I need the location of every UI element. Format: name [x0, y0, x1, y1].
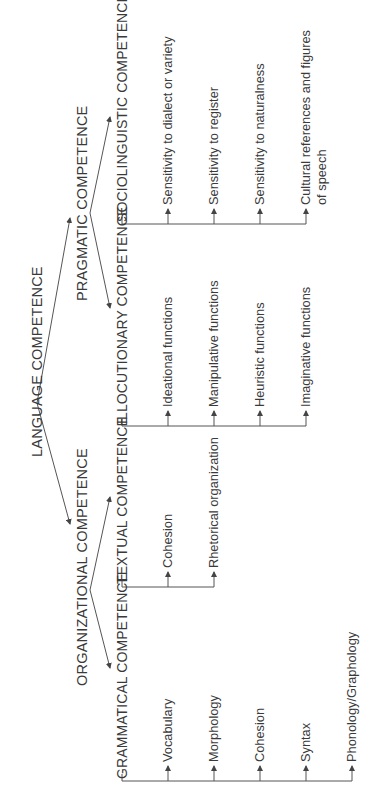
sociolinguistic-item: Sensitivity to register	[208, 87, 221, 205]
textual-bracket	[122, 572, 214, 587]
illocutionary-item: Heuristic functions	[254, 302, 267, 407]
illocutionary-bracket	[122, 411, 306, 426]
diagram-connectors	[0, 0, 376, 798]
sociolinguistic-title: SOCIOLINGUISTIC COMPETENCE	[115, 0, 129, 222]
sociolinguistic-item: Cultural references and figures	[300, 30, 313, 205]
grammatical-title: GRAMMATICAL COMPETENCE	[115, 573, 129, 779]
arrow-org-to-textual	[90, 497, 110, 590]
root-label: LANGUAGE COMPETENCE	[30, 266, 45, 457]
arrow-prag-to-illocutionary	[90, 213, 110, 308]
illocutionary-title: ILLOCUTIONARY COMPETENCE	[115, 207, 129, 424]
illocutionary-item: Imaginative functions	[300, 287, 313, 407]
grammatical-item: Phonology/Graphology	[346, 632, 359, 762]
sociolinguistic-item: Sensitivity to dialect or variety	[162, 36, 175, 205]
grammatical-item: Vocabulary	[162, 699, 175, 762]
sociolinguistic-item-continuation: of speech	[316, 150, 329, 206]
textual-item: Rhetorical organization	[208, 437, 221, 568]
grammatical-item: Cohesion	[254, 708, 267, 762]
grammatical-bracket	[122, 766, 352, 781]
sociolinguistic-item: Sensitivity to naturalness	[254, 63, 267, 205]
grammatical-item: Morphology	[208, 695, 221, 762]
grammatical-item: Syntax	[300, 723, 313, 762]
arrow-prag-to-sociolinguistic	[90, 117, 110, 213]
textual-title: TEXTUAL COMPETENCE	[115, 417, 129, 584]
arrow-org-to-grammatical	[90, 590, 110, 668]
illocutionary-item: Manipulative functions	[208, 280, 221, 407]
textual-item: Cohesion	[162, 514, 175, 568]
sociolinguistic-bracket	[122, 209, 306, 224]
illocutionary-item: Ideational functions	[162, 297, 175, 407]
pragmatic-label: PRAGMATIC COMPETENCE	[75, 106, 90, 301]
organizational-label: ORGANIZATIONAL COMPETENCE	[75, 448, 90, 686]
